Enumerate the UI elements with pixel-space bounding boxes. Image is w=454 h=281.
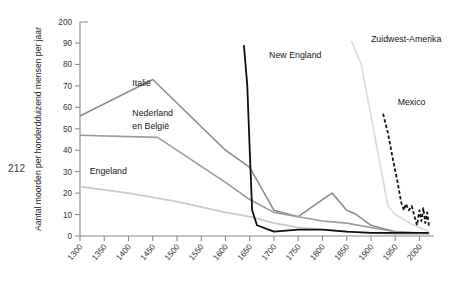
y-tick-label: 70 bbox=[63, 82, 73, 91]
data-series bbox=[80, 41, 429, 234]
series-label: en België bbox=[132, 121, 169, 131]
x-axis-ticks bbox=[80, 236, 419, 241]
x-tick-label: 1750 bbox=[284, 242, 303, 262]
series-label: Zuidwest-Amerika bbox=[371, 34, 441, 44]
x-tick-label: 1800 bbox=[308, 242, 327, 262]
y-tick-label: 90 bbox=[63, 39, 73, 48]
chart-canvas: 0102030405060708090200 13001350140014501… bbox=[0, 0, 454, 281]
x-tick-label: 1350 bbox=[90, 242, 109, 262]
x-tick-label: 1550 bbox=[187, 242, 206, 262]
y-tick-label: 10 bbox=[63, 211, 73, 220]
y-tick-label: 20 bbox=[63, 189, 73, 198]
y-tick-label: 0 bbox=[67, 232, 72, 241]
x-tick-label: 2000 bbox=[405, 242, 424, 262]
y-axis-ticks bbox=[75, 43, 80, 236]
series-label: Engeland bbox=[90, 166, 127, 176]
series-line bbox=[383, 114, 429, 228]
x-tick-label: 1400 bbox=[114, 242, 133, 262]
homicide-rate-chart: 212 0102030405060708090200 1300135014001… bbox=[0, 0, 454, 281]
x-tick-label: 1950 bbox=[381, 242, 400, 262]
x-axis-tick-labels: 1300135014001450150015501600165017001750… bbox=[66, 242, 424, 262]
series-label: New England bbox=[269, 50, 321, 60]
x-tick-label: 1600 bbox=[211, 242, 230, 262]
y-tick-label: 60 bbox=[63, 103, 73, 112]
x-tick-label: 1900 bbox=[357, 242, 376, 262]
y-axis-tick-labels: 0102030405060708090200 bbox=[58, 18, 72, 241]
x-tick-label: 1300 bbox=[66, 242, 85, 262]
y-tick-label: 80 bbox=[63, 60, 73, 69]
series-line bbox=[352, 41, 430, 232]
page-number: 212 bbox=[8, 163, 25, 174]
y-tick-label: 50 bbox=[63, 125, 73, 134]
x-tick-label: 1450 bbox=[139, 242, 158, 262]
x-tick-label: 1500 bbox=[163, 242, 182, 262]
y-tick-label: 30 bbox=[63, 168, 73, 177]
x-tick-label: 1850 bbox=[333, 242, 352, 262]
axes bbox=[75, 22, 434, 241]
y-tick-label: 40 bbox=[63, 146, 73, 155]
series-labels: ItaliëNederlanden BelgiëEngelandNew Engl… bbox=[90, 34, 442, 175]
series-label: Nederland bbox=[132, 108, 173, 118]
series-line bbox=[80, 79, 429, 233]
series-label: Italië bbox=[132, 78, 151, 88]
y-axis-title: Aantal moorden per honderdduizend mensen… bbox=[33, 27, 43, 231]
x-tick-label: 1700 bbox=[260, 242, 279, 262]
y-tick-label: 200 bbox=[58, 18, 72, 27]
series-label: Mexico bbox=[398, 97, 426, 107]
x-tick-label: 1650 bbox=[236, 242, 255, 262]
y-axis-line bbox=[80, 22, 88, 236]
